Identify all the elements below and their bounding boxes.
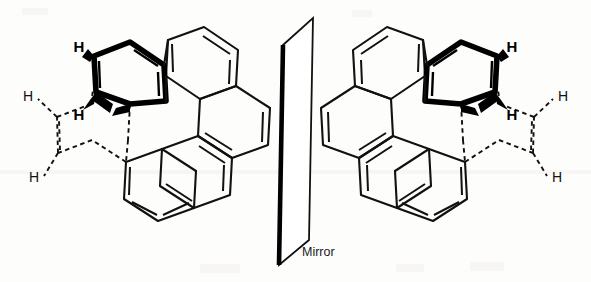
- right-hydrogen-labels: H H H H: [507, 38, 568, 185]
- right-wedge-bonds: [461, 49, 509, 116]
- left-h-top: H: [74, 38, 85, 55]
- mirror-plane: [279, 18, 313, 265]
- left-bold-ring: [94, 40, 168, 104]
- right-h-lower-outer: H: [552, 169, 562, 185]
- left-h-lower-outer: H: [29, 169, 39, 185]
- left-wedge-bonds: [82, 49, 130, 116]
- left-h-upper-outer: H: [23, 88, 33, 104]
- right-h-upper-outer: H: [558, 88, 568, 104]
- mirror-label: Mirror: [302, 245, 335, 259]
- right-dashed-ring: [461, 90, 553, 176]
- right-enantiomer: [321, 27, 553, 221]
- right-bold-ring: [423, 40, 497, 104]
- left-ring-c: [198, 86, 270, 158]
- right-h-inner: H: [507, 106, 518, 123]
- left-enantiomer: H H H H: [23, 27, 270, 221]
- left-h-inner: H: [74, 106, 85, 123]
- right-h-top: H: [507, 38, 518, 55]
- helicene-mirror-diagram: H H H H Mirror: [0, 0, 591, 282]
- figure-root: H H H H Mirror: [0, 0, 591, 282]
- right-ring-c: [321, 86, 393, 158]
- left-dashed-ring: [38, 90, 130, 176]
